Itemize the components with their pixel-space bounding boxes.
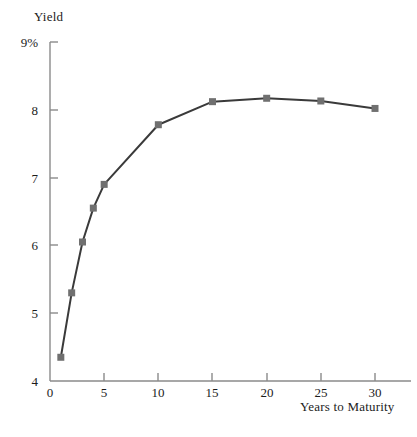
data-point-markers: [57, 95, 378, 361]
data-point-marker: [79, 239, 86, 246]
data-point-marker: [155, 121, 162, 128]
plot-area: [0, 0, 417, 437]
data-point-marker: [101, 181, 108, 188]
data-point-marker: [372, 105, 379, 112]
data-point-marker: [263, 95, 270, 102]
x-axis-ticks: [104, 373, 375, 381]
data-point-marker: [90, 205, 97, 212]
data-point-marker: [57, 354, 64, 361]
axis-lines: [50, 42, 411, 381]
data-point-marker: [68, 289, 75, 296]
data-point-marker: [209, 98, 216, 105]
yield-curve-chart: Yield 9% 8 7 6 5 4 0 5 10 15 20 25 30 Ye…: [0, 0, 417, 437]
data-point-marker: [317, 97, 324, 104]
y-axis-ticks: [50, 42, 58, 313]
yield-curve-line: [61, 98, 375, 357]
